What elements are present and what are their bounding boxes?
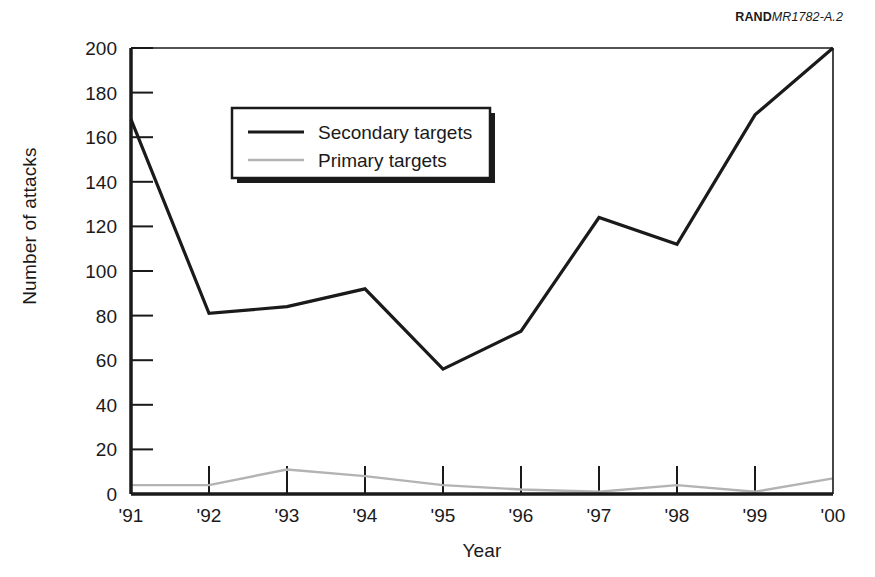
- y-tick-label: 80: [96, 306, 117, 327]
- y-axis-title: Number of attacks: [19, 86, 41, 366]
- rand-document-id: MR1782-A.2: [772, 10, 843, 24]
- x-axis-title: Year: [131, 540, 833, 562]
- rand-credit-line: RANDMR1782-A.2: [735, 10, 843, 24]
- x-tick-label: '93: [275, 505, 300, 526]
- chart-legend: Secondary targetsPrimary targets: [232, 108, 495, 183]
- series-line: [131, 48, 833, 369]
- y-tick-label: 200: [85, 38, 117, 59]
- x-tick-label: '97: [587, 505, 612, 526]
- y-tick-label: 180: [85, 83, 117, 104]
- x-tick-label: '96: [509, 505, 534, 526]
- legend-item-label: Secondary targets: [318, 122, 472, 143]
- x-axis-ticks: '91'92'93'94'95'96'97'98'99'00: [119, 466, 846, 526]
- y-tick-label: 20: [96, 439, 117, 460]
- legend-item-label: Primary targets: [318, 150, 447, 171]
- y-tick-label: 140: [85, 172, 117, 193]
- figure-container: RANDMR1782-A.2 Number of attacks Year 02…: [0, 0, 875, 577]
- y-tick-label: 0: [106, 484, 117, 505]
- x-tick-label: '99: [743, 505, 768, 526]
- line-chart-plot: 020406080100120140160180200 '91'92'93'94…: [0, 0, 875, 577]
- series-line: [131, 469, 833, 491]
- x-tick-label: '98: [665, 505, 690, 526]
- y-tick-label: 160: [85, 127, 117, 148]
- y-tick-label: 40: [96, 395, 117, 416]
- x-tick-label: '92: [197, 505, 222, 526]
- x-tick-label: '94: [353, 505, 378, 526]
- y-axis-ticks: 020406080100120140160180200: [85, 38, 153, 505]
- rand-brand-label: RAND: [735, 10, 772, 24]
- x-tick-label: '00: [821, 505, 846, 526]
- y-tick-label: 120: [85, 216, 117, 237]
- y-tick-label: 60: [96, 350, 117, 371]
- x-tick-label: '91: [119, 505, 144, 526]
- x-tick-label: '95: [431, 505, 456, 526]
- y-tick-label: 100: [85, 261, 117, 282]
